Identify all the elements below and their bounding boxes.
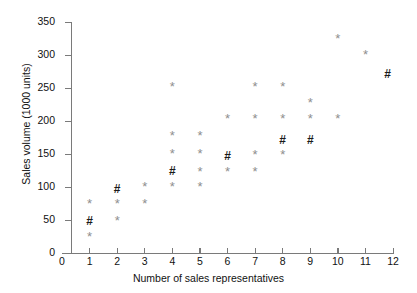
data-point-star: *	[248, 165, 262, 179]
y-tick	[65, 220, 71, 221]
data-point-star: *	[83, 230, 97, 244]
data-point-star: *	[165, 147, 179, 161]
data-point-star: *	[303, 112, 317, 126]
data-point-star: *	[331, 32, 345, 46]
x-tick	[337, 248, 338, 254]
x-tick-label: 9	[298, 256, 322, 267]
data-point-star: *	[248, 148, 262, 162]
data-point-star: *	[193, 129, 207, 143]
data-point-star: *	[83, 197, 97, 211]
x-axis-title: Number of sales representatives	[0, 272, 417, 284]
x-tick-label: 8	[271, 256, 295, 267]
data-point-hash: #	[221, 150, 235, 164]
x-tick-label: 12	[381, 256, 405, 267]
data-point-star: *	[138, 197, 152, 211]
data-point-star: *	[276, 148, 290, 162]
x-tick	[365, 248, 366, 254]
x-tick	[282, 248, 283, 254]
data-point-star: *	[193, 165, 207, 179]
x-tick	[199, 248, 200, 254]
data-point-star: *	[193, 180, 207, 194]
y-tick	[65, 121, 71, 122]
y-tick	[65, 88, 71, 89]
y-tick	[65, 253, 71, 254]
y-tick	[65, 154, 71, 155]
x-tick	[144, 248, 145, 254]
data-point-hash: #	[380, 68, 394, 82]
x-tick	[172, 248, 173, 254]
data-point-star: *	[276, 80, 290, 94]
x-tick-label: 3	[133, 256, 157, 267]
x-tick	[393, 248, 394, 254]
y-axis-title: Sales volume (1000 units)	[20, 24, 32, 224]
data-point-star: *	[331, 112, 345, 126]
data-point-star: *	[110, 197, 124, 211]
data-point-star: *	[138, 180, 152, 194]
scatter-chart: 050100150200250300350 0123456789101112 *…	[0, 0, 417, 293]
x-tick-label: 7	[243, 256, 267, 267]
data-point-hash: #	[276, 134, 290, 148]
x-tick-label: 6	[216, 256, 240, 267]
x-tick-label: 10	[326, 256, 350, 267]
data-point-hash: #	[303, 134, 317, 148]
data-point-star: *	[276, 112, 290, 126]
x-tick-label: 2	[105, 256, 129, 267]
x-tick	[310, 248, 311, 254]
data-point-hash: #	[165, 165, 179, 179]
y-tick	[65, 55, 71, 56]
data-point-star: *	[165, 180, 179, 194]
y-tick	[65, 22, 71, 23]
x-tick	[117, 248, 118, 254]
y-tick	[65, 187, 71, 188]
data-point-star: *	[165, 80, 179, 94]
data-point-star: *	[221, 112, 235, 126]
data-point-star: *	[221, 165, 235, 179]
data-point-star: *	[248, 80, 262, 94]
data-point-star: *	[358, 48, 372, 62]
x-tick	[89, 248, 90, 254]
data-point-star: *	[193, 147, 207, 161]
data-point-star: *	[303, 96, 317, 110]
x-tick-label: 5	[188, 256, 212, 267]
data-point-hash: #	[110, 183, 124, 197]
data-point-star: *	[110, 214, 124, 228]
x-tick	[227, 248, 228, 254]
x-tick-label: 11	[353, 256, 377, 267]
x-tick-label: 4	[160, 256, 184, 267]
data-point-star: *	[165, 129, 179, 143]
x-tick	[255, 248, 256, 254]
data-point-star: *	[248, 112, 262, 126]
data-point-hash: #	[83, 215, 97, 229]
x-tick-label: 1	[78, 256, 102, 267]
x-tick-label: 0	[50, 256, 74, 267]
y-axis-line	[71, 22, 72, 254]
